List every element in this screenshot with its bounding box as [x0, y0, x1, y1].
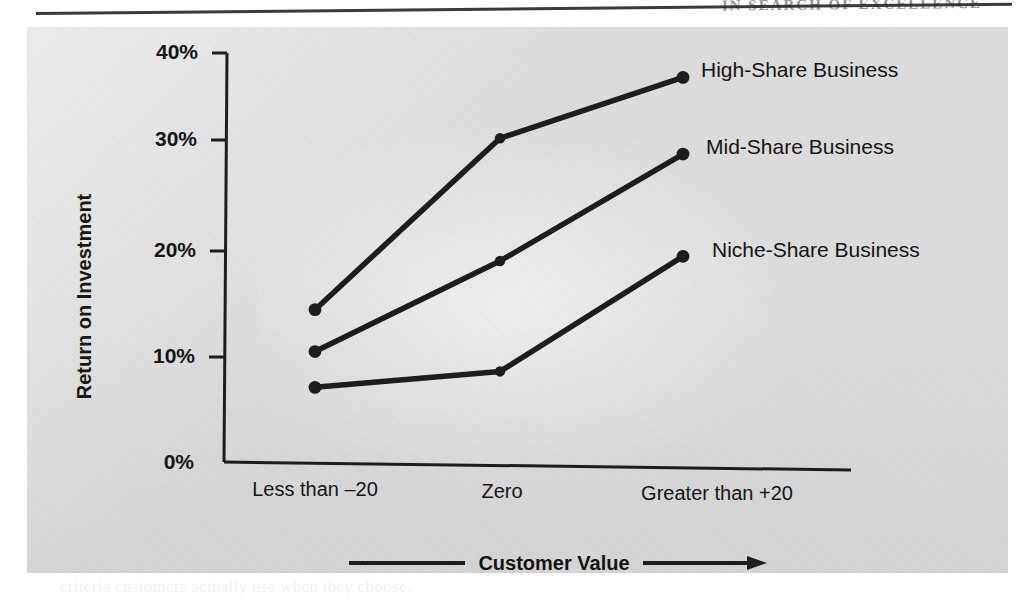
series-label-high-share: High-Share Business [701, 58, 898, 82]
series-line-0 [315, 77, 683, 309]
series-label-mid-share: Mid-Share Business [706, 135, 894, 159]
x-tick-label-greater-than-20: Greater than +20 [595, 482, 839, 505]
y-tick-label-30: 30% [109, 127, 197, 151]
data-point-marker [309, 345, 322, 358]
data-point-marker [677, 250, 690, 263]
series-label-niche-share: Niche-Share Business [712, 238, 920, 262]
plot-area [0, 0, 1034, 600]
data-point-marker [495, 256, 505, 266]
x-tick-label-less-than-20: Less than –20 [215, 478, 415, 501]
y-tick-label-10: 10% [107, 344, 195, 368]
series-lines [309, 71, 690, 394]
x-axis-line [224, 462, 851, 470]
data-point-marker [677, 148, 690, 161]
y-tick-label-20: 20% [108, 238, 196, 262]
x-tick-label-zero: Zero [432, 480, 572, 503]
data-point-marker [309, 381, 322, 394]
series-line-1 [315, 154, 683, 352]
y-tick-label-40: 40% [110, 40, 198, 64]
data-point-marker [495, 133, 505, 143]
data-point-marker [677, 71, 690, 84]
data-point-marker [495, 366, 505, 376]
y-tick-label-0: 0% [106, 450, 194, 474]
data-point-marker [309, 303, 322, 316]
y-axis-line [224, 53, 227, 462]
